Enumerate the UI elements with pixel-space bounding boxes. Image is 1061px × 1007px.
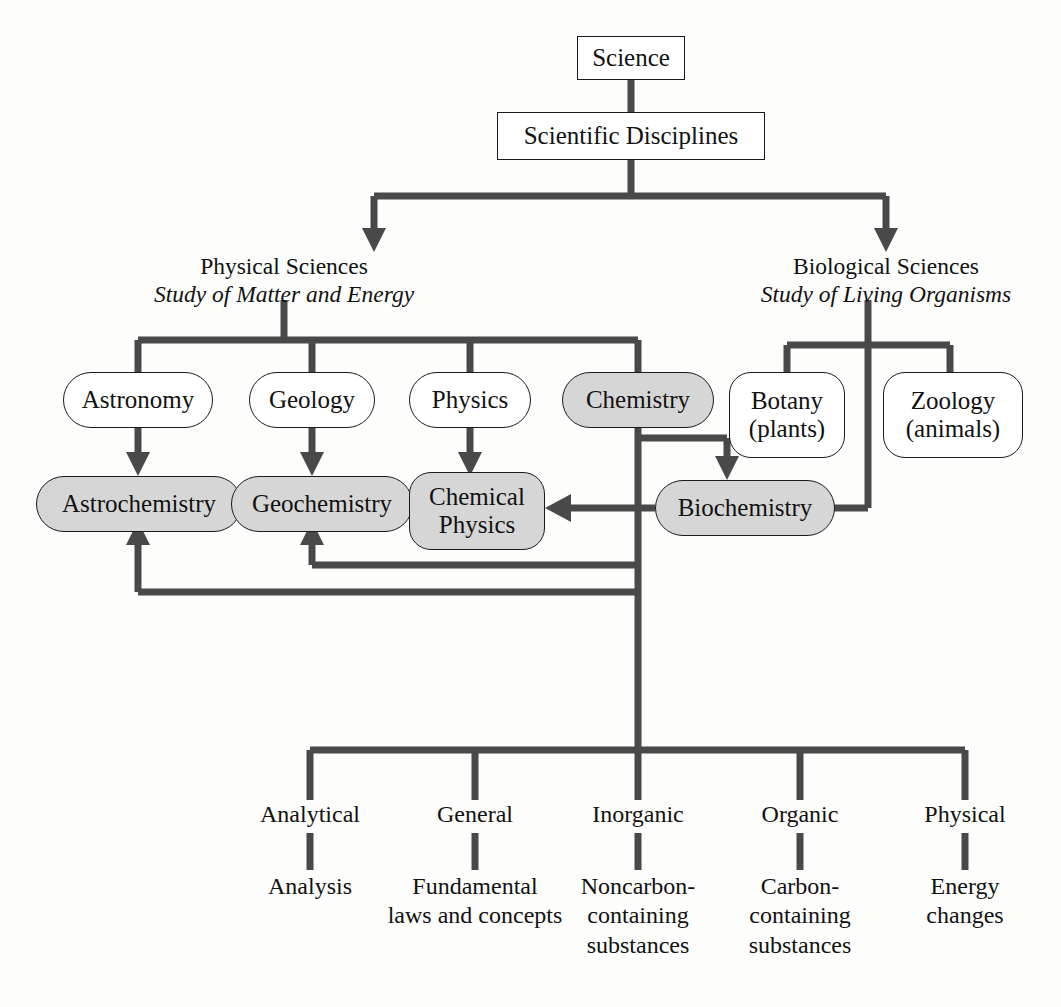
column-desc-general-line2: laws and concepts [370,901,580,930]
column-desc-general-line1: Fundamental [370,872,580,901]
node-geology-label: Geology [269,387,355,413]
node-geochemistry[interactable]: Geochemistry [231,476,413,532]
node-scientific-disciplines-label: Scientific Disciplines [524,123,739,149]
column-desc-organic-line3: substances [715,931,885,960]
column-label-physical: Physical [885,800,1045,829]
node-astrochemistry[interactable]: Astrochemistry [36,476,242,532]
column-label-inorganic: Inorganic [558,800,718,829]
node-chemical-physics-line1: Chemical [429,483,525,511]
node-geology[interactable]: Geology [249,372,375,428]
node-astronomy[interactable]: Astronomy [63,372,213,428]
branch-biological-subtitle: Study of Living Organisms [736,280,1036,308]
column-label-general: General [395,800,555,829]
node-astronomy-label: Astronomy [82,387,195,413]
node-science-label: Science [592,45,670,71]
node-physics-label: Physics [432,387,508,413]
column-desc-inorganic-line1: Noncarbon- [553,872,723,901]
node-zoology[interactable]: Zoology (animals) [883,372,1023,458]
node-biochemistry-label: Biochemistry [678,495,813,521]
column-label-general-text: General [437,801,513,827]
column-desc-general: Fundamental laws and concepts [370,872,580,931]
column-desc-inorganic-line2: containing [553,901,723,930]
column-desc-physical-line2: changes [880,901,1050,930]
column-desc-physical-line1: Energy [880,872,1050,901]
column-label-physical-text: Physical [924,801,1005,827]
column-desc-physical: Energy changes [880,872,1050,931]
node-chemical-physics[interactable]: Chemical Physics [409,472,545,550]
column-label-organic: Organic [720,800,880,829]
node-botany[interactable]: Botany (plants) [729,372,845,458]
branch-physical-name: Physical Sciences [200,253,368,279]
node-physics[interactable]: Physics [409,372,531,428]
node-scientific-disciplines: Scientific Disciplines [497,112,765,160]
column-desc-inorganic: Noncarbon- containing substances [553,872,723,960]
column-desc-organic-line1: Carbon- [715,872,885,901]
column-label-organic-text: Organic [762,801,839,827]
node-chemical-physics-line2: Physics [439,511,515,539]
science-disciplines-diagram: Science Scientific Disciplines Physical … [0,0,1061,1007]
node-botany-sublabel: (plants) [749,415,825,443]
column-label-inorganic-text: Inorganic [592,801,684,827]
node-botany-label: Botany [751,387,823,415]
node-chemistry-label: Chemistry [586,387,690,413]
node-chemistry[interactable]: Chemistry [562,372,714,428]
branch-physical-subtitle: Study of Matter and Energy [134,280,434,308]
branch-biological-name: Biological Sciences [793,253,979,279]
node-science: Science [577,36,685,80]
column-desc-organic: Carbon- containing substances [715,872,885,960]
column-label-analytical-text: Analytical [260,801,360,827]
node-biochemistry[interactable]: Biochemistry [655,480,835,536]
branch-label-physical-sciences: Physical Sciences Study of Matter and En… [134,252,434,308]
node-astrochemistry-label: Astrochemistry [62,491,216,517]
node-zoology-label: Zoology [911,387,996,415]
node-zoology-sublabel: (animals) [906,415,1000,443]
branch-label-biological-sciences: Biological Sciences Study of Living Orga… [736,252,1036,308]
column-desc-inorganic-line3: substances [553,931,723,960]
column-desc-organic-line2: containing [715,901,885,930]
node-geochemistry-label: Geochemistry [252,491,392,517]
column-label-analytical: Analytical [230,800,390,829]
